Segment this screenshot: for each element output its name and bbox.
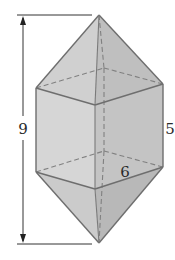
prism-height-label: 5 [165, 120, 175, 138]
base-edge-label: 6 [120, 163, 130, 181]
arrow-up-icon [20, 16, 26, 25]
composite-solid-diagram: 9 5 6 [0, 0, 175, 260]
total-height-label: 9 [18, 120, 28, 138]
arrow-down-icon [20, 234, 26, 243]
